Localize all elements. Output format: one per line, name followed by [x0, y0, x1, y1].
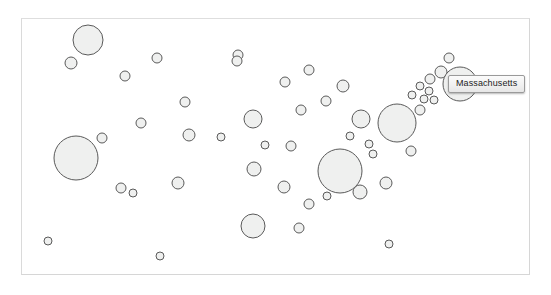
bubble-point-11[interactable] — [247, 162, 261, 176]
bubble-point-12[interactable] — [280, 77, 290, 87]
bubble-point-15[interactable] — [286, 141, 296, 151]
bubble-point-48[interactable] — [241, 214, 265, 238]
bubble-point-09[interactable] — [217, 133, 225, 141]
bubble-point-50[interactable] — [369, 150, 377, 158]
bubble-point-42[interactable] — [172, 177, 184, 189]
bubble-point-47[interactable] — [156, 252, 164, 260]
bubble-point-22[interactable] — [278, 181, 290, 193]
bubble-point-34[interactable] — [416, 82, 424, 90]
bubble-point-36[interactable] — [430, 96, 438, 104]
bubble-point-18[interactable] — [321, 96, 331, 106]
bubble-point-30[interactable] — [406, 146, 416, 156]
bubble-point-33[interactable] — [408, 91, 416, 99]
bubble-point-13[interactable] — [232, 56, 242, 66]
tooltip-label: Massachusetts — [456, 78, 517, 88]
bubble-point-49[interactable] — [385, 240, 393, 248]
bubble-point-04[interactable] — [152, 53, 162, 63]
bubble-point-29[interactable] — [365, 140, 373, 148]
bubble-point-31[interactable] — [415, 105, 425, 115]
bubble-point-35[interactable] — [425, 87, 433, 95]
bubble-point-28[interactable] — [378, 104, 416, 142]
bubble-point-02[interactable] — [65, 57, 77, 69]
bubble-point-39[interactable] — [444, 53, 454, 63]
bubble-point-05[interactable] — [180, 97, 190, 107]
bubble-point-41[interactable] — [116, 183, 126, 193]
bubble-point-25[interactable] — [294, 223, 304, 233]
bubble-map-visualization: Massachusetts — [0, 0, 551, 295]
bubble-point-16[interactable] — [296, 105, 306, 115]
bubble-point-08[interactable] — [183, 129, 195, 141]
bubble-point-20[interactable] — [352, 110, 370, 128]
bubble-point-07[interactable] — [136, 118, 146, 128]
bubble-point-24[interactable] — [323, 192, 331, 200]
bubble-point-26[interactable] — [353, 185, 367, 199]
bubble-point-45[interactable] — [129, 189, 137, 197]
bubble-point-19[interactable] — [337, 80, 349, 92]
bubble-point-01[interactable] — [73, 25, 103, 55]
bubble-point-32[interactable] — [420, 95, 428, 103]
bubble-point-14[interactable] — [261, 141, 269, 149]
bubble-point-27[interactable] — [380, 177, 392, 189]
bubble-point-46[interactable] — [44, 237, 52, 245]
bubble-point-51[interactable] — [346, 132, 354, 140]
bubble-point-17[interactable] — [304, 65, 314, 75]
bubble-point-03[interactable] — [120, 71, 130, 81]
bubble-point-43[interactable] — [54, 136, 98, 180]
bubble-point-37[interactable] — [425, 74, 435, 84]
bubble-point-44[interactable] — [97, 133, 107, 143]
state-tooltip: Massachusetts — [448, 75, 525, 93]
bubble-point-23[interactable] — [304, 199, 314, 209]
bubble-point-10[interactable] — [244, 110, 262, 128]
